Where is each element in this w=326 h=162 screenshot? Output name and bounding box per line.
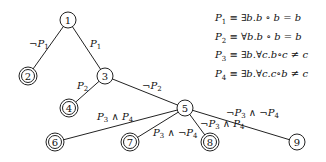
edge-label-3-5: ¬P2 — [142, 80, 162, 93]
predicate-legend: P1 ≡ ∃b.b ∘ b = b P2 ≡ ∀b.b ∘ b = b P3 ≡… — [215, 11, 308, 85]
predicate-definition: ≡ ∃b.b ∘ b = b — [226, 12, 301, 23]
node-8-terminal: 8 — [201, 133, 219, 151]
node-7-terminal: 7 — [121, 133, 139, 151]
edge-label-1-2: ¬P1 — [29, 38, 49, 51]
node-5: 5 — [177, 100, 193, 116]
legend-row-p2: P2 ≡ ∀b.b ∘ b = b — [215, 30, 308, 49]
legend-row-p4: P4 ≡ ∃b.∀c.c∘b ≠ c — [215, 67, 308, 86]
legend-row-p1: P1 ≡ ∃b.b ∘ b = b — [215, 11, 308, 30]
svg-text:9: 9 — [294, 137, 300, 148]
predicate-definition: ≡ ∀b.b ∘ b = b — [226, 31, 302, 42]
edge-label-5-6: P3 ∧ P4 — [96, 111, 134, 124]
node-6-terminal: 6 — [46, 133, 64, 151]
edge-label-3-4: P2 — [76, 80, 88, 93]
predicate-name: P1 — [215, 12, 226, 23]
edge-label-5-8: ¬P3 ∧ P4 — [200, 118, 245, 131]
node-9: 9 — [289, 134, 305, 150]
predicate-name: P3 — [215, 49, 226, 60]
svg-text:3: 3 — [102, 71, 108, 82]
node-4-terminal: 4 — [60, 99, 78, 117]
svg-text:4: 4 — [66, 103, 72, 114]
svg-text:7: 7 — [127, 137, 133, 148]
predicate-name: P4 — [215, 68, 226, 79]
node-1: 1 — [60, 12, 76, 28]
predicate-definition: ≡ ∃b.∀c.b∘c ≠ c — [226, 49, 308, 60]
predicate-definition: ≡ ∃b.∀c.c∘b ≠ c — [226, 68, 308, 79]
legend-row-p3: P3 ≡ ∃b.∀c.b∘c ≠ c — [215, 48, 308, 67]
svg-text:6: 6 — [52, 137, 58, 148]
predicate-name: P2 — [215, 31, 226, 42]
node-2-terminal: 2 — [19, 67, 37, 85]
svg-text:8: 8 — [207, 137, 213, 148]
edge-label-5-7: P3 ∧ ¬P4 — [152, 127, 198, 140]
svg-text:1: 1 — [65, 15, 71, 26]
node-3: 3 — [97, 68, 113, 84]
svg-text:5: 5 — [182, 103, 188, 114]
svg-text:2: 2 — [25, 71, 31, 82]
edge-label-1-3: P1 — [89, 38, 101, 51]
